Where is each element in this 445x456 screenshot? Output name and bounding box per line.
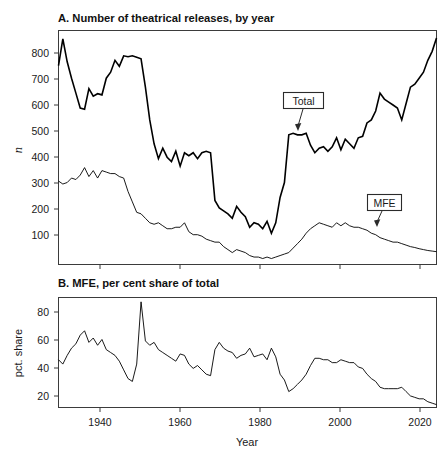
panel-b-y-ticks (54, 312, 59, 396)
panel-a-ytick-100: 100 (31, 229, 49, 241)
panel-a-ytick-700: 700 (31, 73, 49, 85)
xtick-1960: 1960 (168, 416, 192, 428)
annotation-mfe-arrowhead (374, 219, 380, 227)
panel-b-frame (59, 298, 437, 408)
xtick-2020: 2020 (408, 416, 432, 428)
xaxis-title: Year (236, 436, 259, 448)
panel-a-y-ticks (54, 53, 59, 235)
xtick-1940: 1940 (88, 416, 112, 428)
panel-b-yaxis-title: pct. share (12, 329, 24, 377)
panel-a-title: A. Number of theatrical releases, by yea… (58, 12, 275, 24)
panel-b-ytick-60: 60 (37, 334, 49, 346)
panel-a-yaxis-title: n (11, 147, 25, 153)
panel-a-ytick-400: 400 (31, 151, 49, 163)
annotation-total: Total (284, 93, 324, 132)
panel-a-ytick-300: 300 (31, 177, 49, 189)
panel-b-ytick-40: 40 (37, 362, 49, 374)
panel-a-ytick-800: 800 (31, 47, 49, 59)
annotation-total-label: Total (292, 95, 314, 107)
panel-a-ytick-600: 600 (31, 99, 49, 111)
series-line-mfe-share (59, 302, 437, 405)
panel-a-frame (59, 31, 437, 265)
panel-a-x-ticks (100, 265, 420, 270)
xtick-1980: 1980 (248, 416, 272, 428)
xtick-2000: 2000 (328, 416, 352, 428)
annotation-mfe-label: MFE (373, 197, 395, 209)
annotation-total-arrowhead (295, 123, 301, 131)
panel-b-title: B. MFE, per cent share of total (58, 277, 219, 289)
panel-a-ytick-200: 200 (31, 203, 49, 215)
figure-container: A. Number of theatrical releases, by yea… (0, 0, 445, 456)
series-line-mfe (59, 168, 437, 259)
panel-b-x-ticks (100, 408, 420, 413)
chart-svg: A. Number of theatrical releases, by yea… (0, 0, 445, 456)
panel-b-ytick-80: 80 (37, 306, 49, 318)
panel-a-ytick-500: 500 (31, 125, 49, 137)
panel-b-ytick-20: 20 (37, 390, 49, 402)
annotation-mfe: MFE (368, 195, 402, 228)
